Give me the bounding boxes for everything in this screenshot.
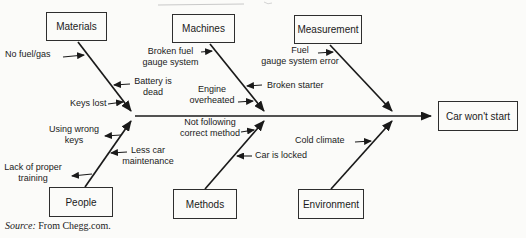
category-box-machines: Machines: [172, 14, 235, 43]
cause-arrow-keys-lost: [108, 102, 123, 104]
cause-label-cold-climate: Cold climate: [295, 135, 345, 146]
cause-arrow-broken-starter: [247, 85, 262, 86]
category-box-people: People: [49, 187, 113, 217]
branch-environment: [331, 121, 392, 189]
cause-arrow-using-wrong-keys: [105, 135, 121, 136]
page-crop-artifact: [158, 4, 244, 5]
cause-label-using-wrong-keys: Using wrong keys: [45, 124, 103, 145]
cause-arrow-cold-climate: [355, 141, 371, 142]
cause-label-fuel-gauge-error: Fuel gauge system error: [252, 45, 348, 66]
cause-arrow-not-following: [241, 130, 254, 132]
category-box-methods: Methods: [173, 189, 237, 219]
category-box-materials: Materials: [46, 12, 107, 41]
source-prefix: Source:: [5, 220, 36, 231]
category-box-environment: Environment: [298, 189, 364, 219]
cause-label-car-is-locked: Car is locked: [255, 150, 307, 161]
cause-label-battery-dead: Battery is dead: [132, 76, 174, 97]
cause-arrow-engine-overheated: [238, 101, 253, 102]
cause-arrow-no-fuel-gas: [63, 55, 84, 57]
source-attribution: Source: From Chegg.com.: [5, 220, 111, 231]
cause-label-not-following: Not following correct method: [178, 117, 242, 138]
cause-label-broken-fuel-gauge: Broken fuel gauge system: [136, 46, 205, 67]
cause-label-engine-overheated: Engine overheated: [186, 84, 238, 105]
cause-arrow-battery-dead: [114, 84, 130, 85]
cause-label-lack-of-training: Lack of proper training: [2, 162, 64, 183]
source-text: From Chegg.com.: [38, 220, 111, 231]
cause-label-keys-lost: Keys lost: [70, 98, 107, 109]
cause-arrow-lack-of-training: [72, 174, 92, 176]
fishbone-diagram: Materials Machines Measurement People Me…: [0, 0, 526, 238]
cause-label-no-fuel-gas: No fuel/gas: [5, 49, 51, 60]
category-box-measurement: Measurement: [294, 15, 362, 44]
page-crop-artifact-mark: [264, 2, 272, 4]
cause-label-less-car-maintenance: Less car maintenance: [118, 145, 178, 166]
effect-box: Car won't start: [438, 101, 518, 131]
cause-label-broken-starter: Broken starter: [267, 80, 324, 91]
